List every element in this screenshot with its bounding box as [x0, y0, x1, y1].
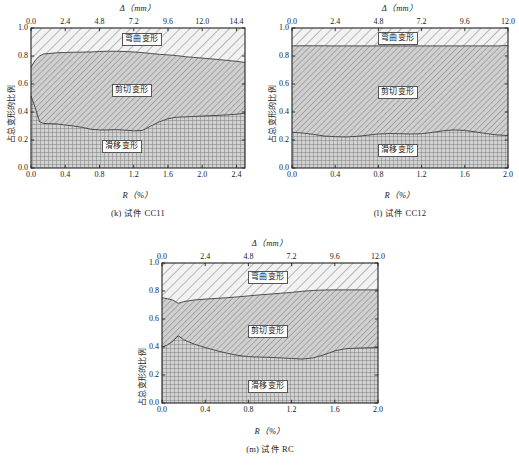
top-x-tick-label: 12.0: [494, 17, 519, 26]
top-x-tick-label: 2.4: [191, 252, 219, 261]
y-tick-label: 1.0: [8, 23, 28, 32]
region-label-shear: 剪切变形: [378, 86, 418, 99]
x-tick-label: 2.4: [222, 170, 250, 179]
x-tick-label: 1.6: [154, 170, 182, 179]
region-label-slip: 滑移变形: [248, 380, 288, 393]
x-tick-label: 0.8: [85, 170, 113, 179]
y-tick-label: 0.2: [269, 135, 289, 144]
panel-cc12-caption: (l) 试件 CC12: [292, 206, 508, 218]
top-x-tick-label: 12.0: [364, 252, 392, 261]
panel-cc11: Δ（mm） 占总变形的比例 R（%） (k) 试件 CC11 0.00.40.8…: [0, 0, 259, 222]
figure-footer-note: [130, 458, 390, 466]
region-label-slip: 滑移变形: [102, 140, 142, 153]
top-x-tick-label: 9.6: [154, 17, 182, 26]
region-label-bending: 弯曲变形: [378, 32, 418, 45]
x-tick-label: 1.2: [278, 405, 306, 414]
top-x-tick-label: 12.0: [188, 17, 216, 26]
region-label-bending: 弯曲变形: [248, 271, 288, 284]
top-x-tick-label: 7.2: [408, 17, 436, 26]
region-label-slip: 滑移变形: [378, 144, 418, 157]
top-x-tick-label: 9.6: [451, 17, 479, 26]
x-tick-label: 1.2: [120, 170, 148, 179]
top-x-tick-label: 4.8: [85, 17, 113, 26]
top-x-tick-label: 4.8: [364, 17, 392, 26]
y-tick-label: 0.4: [269, 107, 289, 116]
top-x-tick-label: 7.2: [120, 17, 148, 26]
y-tick-label: 0.8: [139, 286, 159, 295]
figure-container: Δ（mm） 占总变形的比例 R（%） (k) 试件 CC11 0.00.40.8…: [0, 0, 519, 467]
y-tick-label: 0.2: [139, 370, 159, 379]
top-x-tick-label: 7.2: [278, 252, 306, 261]
y-tick-label: 0.0: [139, 398, 159, 407]
x-tick-label: 1.6: [451, 170, 479, 179]
y-tick-label: 0.0: [269, 163, 289, 172]
y-tick-label: 0.6: [8, 79, 28, 88]
x-tick-label: 1.2: [408, 170, 436, 179]
top-x-tick-label: 2.4: [321, 17, 349, 26]
y-tick-label: 0.8: [8, 51, 28, 60]
x-tick-label: 0.4: [321, 170, 349, 179]
x-tick-label: 0.8: [234, 405, 262, 414]
panel-cc12: Δ（mm） 占总变形的比例 R（%） (l) 试件 CC12 0.00.40.8…: [261, 0, 519, 222]
y-tick-label: 0.0: [8, 163, 28, 172]
y-tick-label: 0.6: [269, 79, 289, 88]
top-x-tick-label: 4.8: [234, 252, 262, 261]
x-tick-label: 2.0: [188, 170, 216, 179]
region-label-shear: 剪切变形: [248, 325, 288, 338]
y-tick-label: 1.0: [269, 23, 289, 32]
y-tick-label: 0.8: [269, 51, 289, 60]
top-x-tick-label: 9.6: [321, 252, 349, 261]
x-tick-label: 2.0: [364, 405, 392, 414]
x-tick-label: 1.6: [321, 405, 349, 414]
region-label-shear: 剪切变形: [112, 84, 152, 97]
region-label-bending: 弯曲变形: [122, 33, 162, 46]
top-x-tick-label: 2.4: [51, 17, 79, 26]
panel-rc-caption: (m) 试件 RC: [162, 442, 378, 454]
top-x-tick-label: 14.4: [222, 17, 250, 26]
y-tick-label: 0.4: [8, 107, 28, 116]
y-tick-label: 0.2: [8, 135, 28, 144]
x-tick-label: 0.4: [51, 170, 79, 179]
panel-rc: Δ（mm） 占总变形的比例 R（%） (m) 试件 RC 0.00.40.81.…: [130, 228, 388, 467]
x-tick-label: 0.4: [191, 405, 219, 414]
y-tick-label: 1.0: [139, 258, 159, 267]
panel-cc11-caption: (k) 试件 CC11: [31, 206, 245, 218]
x-tick-label: 0.8: [364, 170, 392, 179]
y-tick-label: 0.6: [139, 314, 159, 323]
y-tick-label: 0.4: [139, 342, 159, 351]
x-tick-label: 2.0: [494, 170, 519, 179]
